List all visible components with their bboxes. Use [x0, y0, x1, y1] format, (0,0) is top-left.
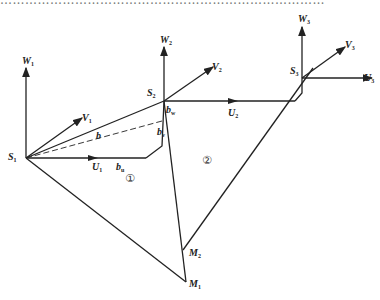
baseline-projection-dashed [26, 121, 162, 158]
ray-s2-m1 [164, 101, 186, 282]
v2-axis [164, 67, 213, 101]
u2-label: U2 [228, 108, 238, 119]
region-1-label: ① [125, 172, 135, 185]
baseline-bv-label: bv [157, 127, 165, 138]
s3-baseline-components [295, 78, 302, 101]
point-m2-label: M2 [189, 248, 201, 259]
station-s3-label: S3 [290, 66, 299, 77]
station-s1-label: S1 [8, 152, 17, 163]
station-s2-label: S2 [147, 88, 156, 99]
w1-label: W1 [22, 56, 34, 67]
diagram-canvas: …………………………………………………………………… [0, 0, 380, 300]
w2-label: W2 [160, 35, 172, 46]
ray-s1-m1 [26, 158, 186, 282]
u1-label: U1 [92, 162, 102, 173]
region-2-label: ② [202, 154, 212, 167]
u2-arrowhead [228, 98, 238, 104]
baseline-b [26, 101, 164, 158]
baseline-bw-label: bw [166, 105, 175, 116]
u3-label: U3 [364, 73, 374, 84]
v1-label: V1 [82, 113, 92, 124]
v2-label: V2 [212, 62, 222, 73]
baseline-bu-label: bu [116, 162, 124, 173]
w3-label: W3 [298, 14, 310, 25]
v3-label: V3 [345, 40, 355, 51]
baseline-b-label: b [96, 131, 101, 141]
point-m1-label: M1 [189, 279, 201, 290]
